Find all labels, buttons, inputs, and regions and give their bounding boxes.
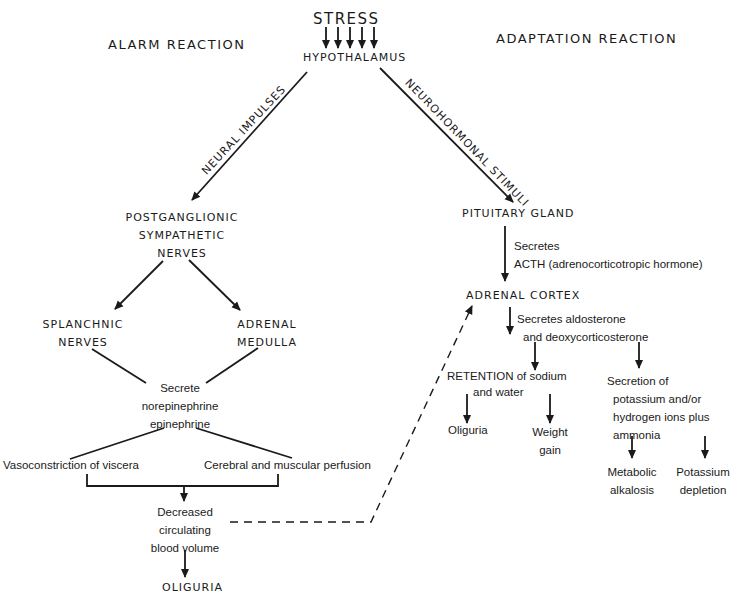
secretion-line-3: hydrogen ions plus — [607, 408, 710, 426]
neurohormonal-arrow — [380, 68, 513, 202]
secretion-potassium-label: Secretion of potassium and/or hydrogen i… — [607, 372, 710, 444]
oliguria-alarm-label: OLIGURIA — [162, 582, 223, 593]
pituitary-gland-label: PITUITARY GLAND — [462, 208, 575, 219]
secrete-line-3: epinephrine — [135, 415, 225, 433]
aldo-line-2: and deoxycorticosterone — [517, 328, 648, 346]
secrete-line-2: norepinephrine — [135, 397, 225, 415]
oliguria-adaptation-label: Oliguria — [448, 425, 488, 437]
adaptation-reaction-heading: ADAPTATION REACTION — [496, 32, 677, 45]
postganglionic-nerves-label: POSTGANGLIONIC SYMPATHETIC NERVES — [122, 209, 242, 263]
diagram-canvas — [0, 0, 732, 601]
retention-line-2: and water — [473, 387, 524, 399]
secretion-line-4: ammonia — [607, 426, 710, 444]
vasoconstriction-label: Vasoconstriction of viscera — [3, 460, 139, 472]
acth-line-2: ACTH (adrenocorticotropic hormone) — [514, 255, 703, 273]
perfusion-label: Cerebral and muscular perfusion — [204, 460, 371, 472]
metabolic-alkalosis-label: Metabolic alkalosis — [603, 463, 661, 499]
acth-label: Secretes ACTH (adrenocorticotropic hormo… — [514, 237, 703, 273]
alarm-reaction-heading: ALARM REACTION — [108, 38, 245, 51]
decreased-line-3: blood volume — [138, 539, 232, 557]
to-medulla-arrow — [189, 260, 240, 310]
secretion-line-2: potassium and/or — [607, 390, 710, 408]
adrenal-medulla-label: ADRENAL MEDULLA — [235, 316, 299, 352]
postganglionic-line-1: POSTGANGLIONIC — [122, 209, 242, 227]
alkalosis-line-1: Metabolic — [603, 463, 661, 481]
postganglionic-line-3: NERVES — [122, 245, 242, 263]
adrenal-cortex-label: ADRENAL CORTEX — [466, 290, 580, 301]
medulla-to-secrete-line — [206, 348, 258, 383]
splanchnic-nerves-label: SPLANCHNIC NERVES — [38, 316, 128, 352]
potassium-depletion-label: Potassium depletion — [675, 463, 731, 499]
alkalosis-line-2: alkalosis — [603, 481, 661, 499]
secretion-line-1: Secretion of — [607, 372, 710, 390]
neural-impulses-arrow — [192, 72, 307, 200]
decreased-blood-volume-label: Decreased circulating blood volume — [138, 503, 232, 557]
potassium-line-2: depletion — [675, 481, 731, 499]
retention-label: RETENTION of sodium — [447, 371, 567, 383]
weight-line-1: Weight — [528, 423, 572, 441]
secrete-line-1: Secrete — [135, 379, 225, 397]
stress-label: STRESS — [313, 12, 380, 27]
postganglionic-line-2: SYMPATHETIC — [122, 227, 242, 245]
acth-line-1: Secretes — [514, 237, 703, 255]
decreased-line-1: Decreased — [138, 503, 232, 521]
aldo-line-1: Secretes aldosterone — [517, 310, 648, 328]
hypothalamus-label: HYPOTHALAMUS — [303, 52, 406, 63]
decreased-line-2: circulating — [138, 521, 232, 539]
splanchnic-line-2: NERVES — [38, 334, 128, 352]
to-splanchnic-arrow — [115, 261, 163, 309]
splanchnic-to-secrete-line — [92, 349, 146, 383]
potassium-line-1: Potassium — [675, 463, 731, 481]
medulla-line-1: ADRENAL — [235, 316, 299, 334]
medulla-line-2: MEDULLA — [235, 334, 299, 352]
secrete-catecholamines-label: Secrete norepinephrine epinephrine — [135, 379, 225, 433]
aldosterone-label: Secretes aldosterone and deoxycorticoste… — [517, 310, 648, 346]
weight-gain-label: Weight gain — [528, 423, 572, 459]
effects-bracket — [87, 474, 278, 486]
splanchnic-line-1: SPLANCHNIC — [38, 316, 128, 334]
weight-line-2: gain — [528, 441, 572, 459]
